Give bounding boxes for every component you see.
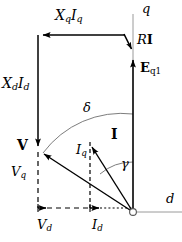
label-gamma-angle: γ [121,157,129,170]
label-xd-id: XdId [2,76,30,92]
label-i-phasor: I [111,127,118,141]
phasor-diagram-figure: XqIq XdId q d RI Eq1 V Vq Vd I Iq Id δ γ [0,0,182,242]
label-vq: Vq [11,165,26,180]
label-v-phasor: V [17,138,28,152]
label-d-axis: d [166,192,174,205]
label-id: Id [92,218,103,233]
label-vd: Vd [37,218,52,233]
v-vector [44,154,133,212]
delta-arc [43,113,133,153]
label-delta-angle: δ [83,101,91,114]
label-iq: Iq [76,143,87,158]
label-xq-iq: XqIq [55,8,83,24]
label-eq1: Eq1 [140,61,161,76]
origin-marker [130,209,137,216]
label-q-axis: q [142,2,150,15]
r-i-vector [124,34,132,49]
phasor-diagram-canvas [0,0,182,242]
label-r-i: RI [137,33,153,46]
